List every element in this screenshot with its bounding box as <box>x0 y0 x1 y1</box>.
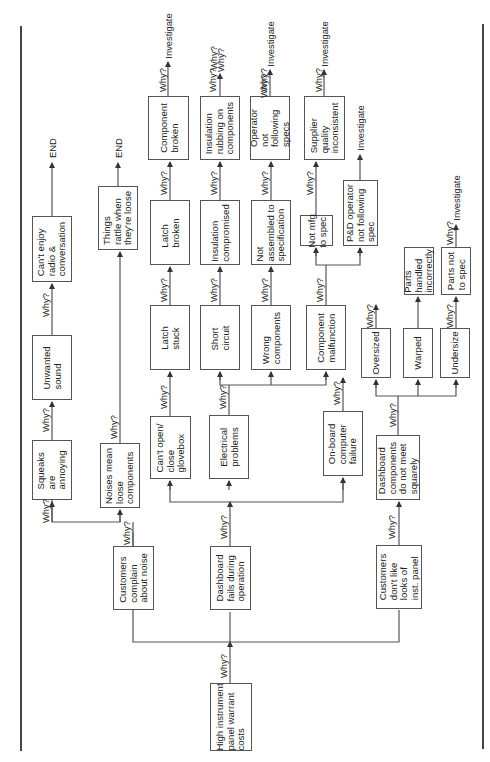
node-label: Electrical problems <box>219 427 240 466</box>
node-label: Parts handled incorrectly <box>403 249 435 293</box>
investigate-label: Investigate <box>163 13 174 58</box>
why-label: Why? <box>259 278 270 302</box>
node-label: Can't open/ close glovebox <box>155 423 187 472</box>
node-label: Undersize <box>450 331 461 374</box>
node-supplier-quality: Supplier quality inconsistent <box>304 96 345 160</box>
node-label: Noises mean loose components <box>104 448 136 504</box>
why-label: Why? <box>208 171 219 195</box>
node-onboard-computer: On-board computer failure <box>323 411 363 476</box>
investigate-label: Investigate <box>265 21 276 66</box>
node-warped: Warped <box>403 328 433 378</box>
why-label: Why? <box>259 171 270 195</box>
node-label: Wrong components <box>261 311 282 363</box>
why-label: Why? <box>304 171 315 195</box>
node-label: Can't enjoy radio & conversation <box>36 222 68 276</box>
node-label: Insulation rubbing on components <box>204 102 236 154</box>
why-label: Why? <box>217 385 228 409</box>
node-latch-broken: Latch broken <box>150 200 190 265</box>
node-label: Squeaks are annoying <box>36 451 68 490</box>
node-label: Component broken <box>158 103 179 153</box>
end-label: END <box>47 138 58 158</box>
why-label: Why? <box>218 515 229 539</box>
node-label: Not mfg to spec <box>306 214 327 248</box>
node-label: Supplier quality inconsistent <box>309 103 341 154</box>
node-insulation-rubbing: Insulation rubbing on components <box>200 96 240 160</box>
node-glovebox: Can't open/ close glovebox <box>150 416 191 479</box>
why-label: Why? <box>314 278 325 302</box>
why-label: Why? <box>387 403 398 427</box>
node-unwanted-sound: Unwanted sound <box>32 335 72 400</box>
open-why-label: Why? <box>215 48 226 72</box>
node-label: On-board computer failure <box>327 423 359 464</box>
why-label: Why? <box>157 68 168 92</box>
node-label: Warped <box>413 336 424 369</box>
node-label: Latch broken <box>160 218 181 247</box>
node-label: Not assembled to specification <box>255 204 287 261</box>
node-label: P&D operator not following spec <box>345 184 377 242</box>
investigate-label: Investigate <box>319 21 330 66</box>
node-electrical: Electrical problems <box>209 415 249 479</box>
investigate-label: Investigate <box>451 175 462 220</box>
node-latch-stuck: Latch stuck <box>150 305 190 370</box>
why-label: Why? <box>40 293 51 317</box>
why-label: Why? <box>444 304 455 328</box>
node-component-malfunction: Component malfunction <box>306 305 346 370</box>
node-dashboard-fails: Dashboard fails during operation <box>210 546 251 610</box>
why-label: Why? <box>158 171 169 195</box>
node-cant-enjoy: Can't enjoy radio & conversation <box>32 216 72 282</box>
node-short-circuit: Short circuit <box>200 305 240 370</box>
node-parts-not-spec: Parts not to spec <box>441 247 471 295</box>
node-label: Dashboard fails during operation <box>215 555 247 602</box>
node-label: Dashboard components do not meet squarel… <box>377 441 419 493</box>
node-label: High instrument panel warrant costs <box>215 683 247 750</box>
why-label: Why? <box>158 385 169 409</box>
node-label: Latch stuck <box>160 326 181 349</box>
why-label: Why? <box>258 74 269 98</box>
node-pd-operator: P&D operator not following spec <box>343 180 378 246</box>
why-label: Why? <box>444 221 455 245</box>
why-label: Why? <box>208 278 219 302</box>
node-not-assembled: Not assembled to specification <box>251 200 291 265</box>
node-oversized: Oversized <box>361 328 391 378</box>
node-label: Customers don't like looks of inst. pane… <box>378 554 420 600</box>
node-root: High instrument panel warrant costs <box>210 683 252 751</box>
investigate-label: Investigate <box>355 105 366 150</box>
node-label: Things rattle when they're loose <box>102 191 134 245</box>
node-dashboard-squarely: Dashboard components do not meet squarel… <box>376 435 420 500</box>
node-parts-handled: Parts handled incorrectly <box>404 247 434 295</box>
why-label: Why? <box>331 381 342 405</box>
node-component-broken: Component broken <box>148 96 189 160</box>
node-not-mfg: Not mfg to spec <box>300 215 333 246</box>
end-label: END <box>113 138 124 158</box>
why-label: Why? <box>121 521 132 545</box>
why-label: Why? <box>364 304 375 328</box>
why-label: Why? <box>40 408 51 432</box>
why-label: Why? <box>313 68 324 92</box>
node-label: Operator not following specs <box>249 109 291 147</box>
node-label: Insulation compromised <box>210 204 231 262</box>
node-undersize: Undersize <box>440 328 470 378</box>
node-label: Unwanted sound <box>42 346 63 389</box>
why-label: Why? <box>218 654 229 678</box>
node-label: Customers complain about noise <box>118 553 150 603</box>
node-label: Component malfunction <box>316 313 337 363</box>
why-label: Why? <box>108 415 119 439</box>
node-label: Short circuit <box>210 325 231 350</box>
node-wrong-components: Wrong components <box>251 305 291 370</box>
connector-lines <box>0 0 490 762</box>
why-label: Why? <box>158 278 169 302</box>
node-squeaks: Squeaks are annoying <box>32 440 72 500</box>
node-operator-specs: Operator not following specs <box>250 96 290 160</box>
node-complain-noise: Customers complain about noise <box>113 546 154 610</box>
why-label: Why? <box>386 515 397 539</box>
node-insulation-compromised: Insulation compromised <box>200 200 240 265</box>
node-dont-like-looks: Customers don't like looks of inst. pane… <box>376 545 422 609</box>
node-label: Oversized <box>371 331 382 374</box>
why-label: Why? <box>40 499 51 523</box>
node-noises-loose: Noises mean loose components <box>100 443 140 508</box>
node-things-rattle: Things rattle when they're loose <box>98 186 138 250</box>
node-label: Parts not to spec <box>446 252 467 290</box>
